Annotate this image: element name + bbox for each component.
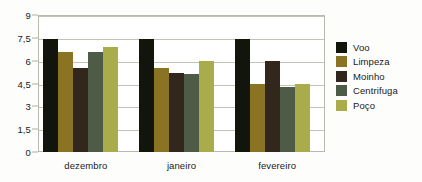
bar xyxy=(43,39,58,152)
bar-group xyxy=(235,15,310,152)
bar-group xyxy=(43,15,118,152)
legend-item[interactable]: Limpeza xyxy=(336,55,420,69)
bar xyxy=(88,52,103,152)
x-axis-category-label: janeiro xyxy=(134,160,230,171)
bar-group xyxy=(139,15,214,152)
bar xyxy=(250,84,265,153)
x-axis-category-label: dezembro xyxy=(38,160,134,171)
bar xyxy=(154,68,169,152)
bar xyxy=(280,87,295,152)
y-axis-tick-label: 9 xyxy=(26,10,31,21)
bar xyxy=(295,84,310,153)
bar xyxy=(139,39,154,152)
bar xyxy=(73,68,88,152)
y-axis-tick-label: 1,5 xyxy=(17,124,31,135)
legend-item[interactable]: Centrifuga xyxy=(336,84,420,98)
x-axis-category-label: fevereiro xyxy=(229,160,325,171)
legend-item-label: Centrifuga xyxy=(353,85,398,96)
legend-item[interactable]: Poço xyxy=(336,98,420,112)
bar xyxy=(103,47,118,152)
bar xyxy=(58,52,73,152)
legend-swatch-icon xyxy=(336,42,347,53)
legend-swatch-icon xyxy=(336,71,347,82)
legend-item[interactable]: Moinho xyxy=(336,69,420,83)
legend-item-label: Poço xyxy=(353,100,375,111)
y-axis: 01,534,567,59 xyxy=(0,0,38,182)
legend-item-label: Limpeza xyxy=(353,56,390,67)
y-axis-tick-label: 3 xyxy=(26,101,31,112)
bar-chart: 01,534,567,59 VooLimpezaMoinhoCentrifuga… xyxy=(0,0,422,182)
legend-item-label: Voo xyxy=(353,42,370,53)
bar xyxy=(169,73,184,152)
bar xyxy=(265,61,280,152)
bar xyxy=(199,61,214,152)
y-axis-tick-label: 6 xyxy=(26,55,31,66)
bar xyxy=(235,39,250,152)
y-axis-tick-label: 0 xyxy=(26,147,31,158)
bars-layer xyxy=(38,15,325,152)
legend-swatch-icon xyxy=(336,100,347,111)
legend-item-label: Moinho xyxy=(353,71,385,82)
y-axis-tick-label: 7,5 xyxy=(17,32,31,43)
legend-swatch-icon xyxy=(336,85,347,96)
legend-item[interactable]: Voo xyxy=(336,40,420,54)
y-axis-tick-label: 4,5 xyxy=(17,78,31,89)
chart-legend: VooLimpezaMoinhoCentrifugaPoço xyxy=(336,40,420,113)
legend-swatch-icon xyxy=(336,56,347,67)
bar xyxy=(184,74,199,152)
